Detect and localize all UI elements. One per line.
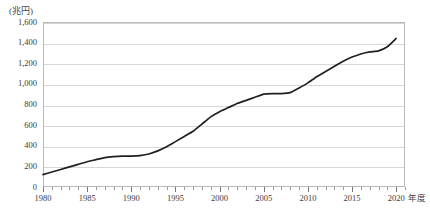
y-tick-label: 0 xyxy=(33,183,37,192)
data-series-layer xyxy=(43,22,405,187)
x-tick-label: 2005 xyxy=(255,193,272,203)
x-tick-major xyxy=(220,187,221,192)
x-tick-major xyxy=(264,187,265,192)
x-tick-label: 1980 xyxy=(35,193,52,203)
x-tick-minor xyxy=(299,187,300,190)
x-tick-minor xyxy=(246,187,247,190)
x-tick-minor xyxy=(334,187,335,190)
x-tick-minor xyxy=(61,187,62,190)
x-tick-minor xyxy=(281,187,282,190)
x-tick-minor xyxy=(326,187,327,190)
x-tick-minor xyxy=(317,187,318,190)
x-tick-minor xyxy=(343,187,344,190)
x-tick-minor xyxy=(202,187,203,190)
x-tick-label: 2020 xyxy=(388,193,405,203)
x-tick-minor xyxy=(105,187,106,190)
y-tick-label: 600 xyxy=(24,121,37,130)
y-tick-label: 200 xyxy=(24,162,37,171)
y-tick-label: 1,200 xyxy=(18,59,37,68)
x-tick-label: 1985 xyxy=(79,193,96,203)
x-tick-minor xyxy=(184,187,185,190)
x-tick-minor xyxy=(370,187,371,190)
x-tick-label: 2010 xyxy=(299,193,316,203)
x-tick-minor xyxy=(273,187,274,190)
series-line-national-debt xyxy=(43,39,396,175)
x-tick-minor xyxy=(290,187,291,190)
x-tick-minor xyxy=(78,187,79,190)
x-tick-major xyxy=(43,187,44,192)
x-tick-minor xyxy=(122,187,123,190)
x-tick-minor xyxy=(52,187,53,190)
y-axis: 1,6001,4001,2001,0008006004002000 xyxy=(0,0,43,215)
x-tick-minor xyxy=(211,187,212,190)
x-tick-minor xyxy=(69,187,70,190)
x-axis-unit-label: 年度 xyxy=(408,193,426,203)
y-tick-label: 800 xyxy=(24,100,37,109)
x-tick-minor xyxy=(193,187,194,190)
x-axis-labels: 198019851990199520002005201020152020 xyxy=(0,193,430,207)
y-tick-label: 1,000 xyxy=(18,79,37,88)
x-tick-minor xyxy=(167,187,168,190)
x-tick-major xyxy=(87,187,88,192)
y-tick-label: 1,400 xyxy=(18,38,37,47)
x-tick-major xyxy=(396,187,397,192)
x-tick-minor xyxy=(228,187,229,190)
line-chart-figure: (兆円) 1,6001,4001,2001,0008006004002000 1… xyxy=(0,0,430,215)
x-tick-minor xyxy=(140,187,141,190)
x-tick-major xyxy=(352,187,353,192)
x-tick-minor xyxy=(237,187,238,190)
x-tick-minor xyxy=(158,187,159,190)
x-tick-minor xyxy=(114,187,115,190)
x-tick-minor xyxy=(405,187,406,190)
x-tick-minor xyxy=(387,187,388,190)
x-tick-minor xyxy=(255,187,256,190)
y-tick-label: 400 xyxy=(24,141,37,150)
x-tick-label: 2000 xyxy=(211,193,228,203)
x-tick-minor xyxy=(361,187,362,190)
x-tick-label: 1990 xyxy=(123,193,140,203)
x-tick-minor xyxy=(379,187,380,190)
x-tick-label: 1995 xyxy=(167,193,184,203)
x-tick-major xyxy=(308,187,309,192)
x-tick-label: 2015 xyxy=(344,193,361,203)
x-tick-minor xyxy=(149,187,150,190)
x-tick-major xyxy=(175,187,176,192)
x-tick-major xyxy=(131,187,132,192)
x-tick-minor xyxy=(96,187,97,190)
y-tick-label: 1,600 xyxy=(18,18,37,27)
